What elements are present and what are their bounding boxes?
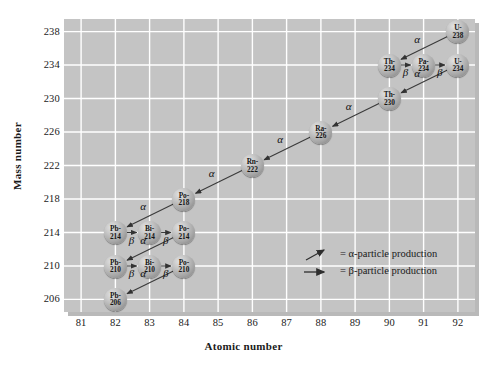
y-tick-210: 210 [26, 261, 60, 272]
y-tick-214: 214 [26, 228, 60, 239]
x-tick-81: 81 [66, 318, 96, 329]
x-axis-ticks: 818283848586878889909192 [0, 318, 487, 334]
x-tick-86: 86 [237, 318, 267, 329]
decay-label-alpha: α [414, 67, 420, 79]
decay-label-beta: β [403, 66, 408, 78]
legend-row-alpha: = α-particle production [300, 247, 475, 264]
legend: = α-particle production = β-particle pro… [300, 247, 475, 281]
x-tick-90: 90 [374, 318, 404, 329]
legend-alpha-text: = α-particle production [340, 248, 437, 259]
y-tick-234: 234 [26, 60, 60, 71]
decay-label-alpha: α [277, 133, 283, 145]
decay-series-figure: U-238Th-234Pa-234U-234Th-230Ra-226Rn-222… [0, 0, 487, 379]
decay-label-alpha: α [140, 200, 146, 212]
decay-label-beta: β [163, 234, 168, 246]
decay-label-alpha: α [346, 100, 352, 112]
x-tick-87: 87 [272, 318, 302, 329]
legend-row-beta: = β-particle production [300, 264, 475, 281]
decay-label-beta: β [129, 267, 134, 279]
x-tick-84: 84 [169, 318, 199, 329]
plot-panel: U-238Th-234Pa-234U-234Th-230Ra-226Rn-222… [64, 19, 475, 312]
x-tick-85: 85 [203, 318, 233, 329]
y-axis-title: Mass number [11, 101, 23, 211]
x-tick-83: 83 [135, 318, 165, 329]
y-tick-238: 238 [26, 27, 60, 38]
legend-beta-text: = β-particle production [340, 265, 437, 276]
x-tick-91: 91 [409, 318, 439, 329]
decay-label-alpha: α [140, 234, 146, 246]
y-tick-226: 226 [26, 127, 60, 138]
decay-label-beta: β [129, 234, 134, 246]
horizontal-arrow-icon [302, 264, 336, 280]
x-tick-82: 82 [100, 318, 130, 329]
y-tick-206: 206 [26, 294, 60, 305]
x-tick-89: 89 [340, 318, 370, 329]
x-axis-title: Atomic number [0, 340, 487, 352]
diagonal-arrow-icon [302, 247, 336, 263]
decay-label-alpha: α [140, 267, 146, 279]
decay-label-beta: β [163, 267, 168, 279]
x-tick-88: 88 [306, 318, 336, 329]
y-tick-230: 230 [26, 94, 60, 105]
x-tick-92: 92 [443, 318, 473, 329]
decay-label-beta: β [437, 66, 442, 78]
y-tick-218: 218 [26, 194, 60, 205]
y-tick-222: 222 [26, 161, 60, 172]
decay-label-alpha: α [209, 167, 215, 179]
decay-label-alpha: α [414, 33, 420, 45]
